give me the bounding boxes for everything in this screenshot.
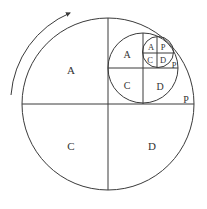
outer-label-c: C [67,140,74,152]
middle-level [108,33,178,104]
middle-label-p: P [172,60,177,70]
outer-label-a: A [67,64,75,76]
inner-label-d: D [160,55,166,65]
middle-label-c: C [124,80,131,91]
outer-label-p: P [183,94,189,105]
inner-label-c: C [147,55,153,65]
outer-label-d: D [148,140,156,152]
diagram-canvas: A C D P A C D P A P C D [0,0,207,209]
recursive-quadrant-diagram: A C D P A C D P A P C D [0,0,207,209]
curved-arrow-icon [11,13,70,95]
middle-label-d: D [156,81,163,92]
inner-label-a: A [148,42,155,52]
middle-label-a: A [123,49,131,60]
inner-label-p: P [161,42,166,52]
